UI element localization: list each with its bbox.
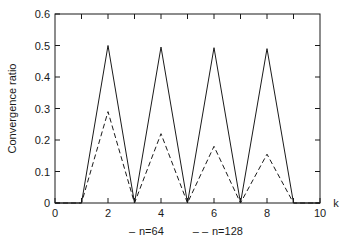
y-tick-label-0-1: 0.1 <box>35 166 50 178</box>
x-tick-label-10: 10 <box>314 207 326 219</box>
y-tick-label-0-5: 0.5 <box>35 40 50 52</box>
x-tick-label-8: 8 <box>264 207 270 219</box>
y-tick-label-0-2: 0.2 <box>35 134 50 146</box>
plot-svg: 0 0.1 0.2 0.3 0.4 0.5 0.6 0 2 4 6 8 10 k… <box>0 0 352 244</box>
series-line-n64 <box>55 46 320 204</box>
plot-frame <box>55 14 320 203</box>
chart-figure: 0 0.1 0.2 0.3 0.4 0.5 0.6 0 2 4 6 8 10 k… <box>0 0 352 244</box>
y-axis-title: Convergence ratio <box>6 64 18 154</box>
x-tick-label-4: 4 <box>158 207 164 219</box>
y-tick-label-0-4: 0.4 <box>35 71 50 83</box>
legend-label-n64: n=64 <box>139 225 164 237</box>
legend: – n=64 – – n=128 <box>129 225 243 237</box>
y-tick-label-0-6: 0.6 <box>35 8 50 20</box>
legend-label-n128: n=128 <box>212 225 243 237</box>
x-tick-marks-top <box>82 14 294 19</box>
x-axis-title: k <box>333 197 339 209</box>
x-tick-label-0: 0 <box>52 207 58 219</box>
y-tick-label-0-3: 0.3 <box>35 103 50 115</box>
x-tick-label-6: 6 <box>211 207 217 219</box>
legend-dash-n128: – – <box>193 225 209 237</box>
x-tick-label-2: 2 <box>105 207 111 219</box>
legend-dash-n64: – <box>129 225 136 237</box>
y-tick-label-0: 0 <box>44 197 50 209</box>
y-tick-marks <box>55 14 60 203</box>
y-tick-marks-right <box>315 46 320 204</box>
